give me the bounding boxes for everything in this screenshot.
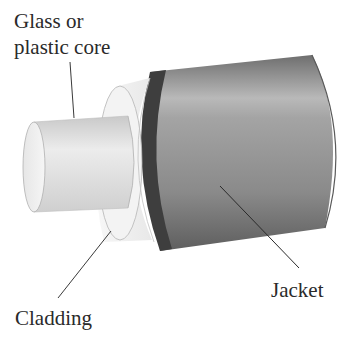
core-leader-line: [70, 62, 74, 118]
core: [23, 116, 134, 212]
core-label-line2: plastic core: [14, 34, 110, 60]
cladding-leader-line: [58, 231, 111, 298]
fiber-optic-diagram: Glass or plastic core Cladding Jacket: [0, 0, 349, 344]
core-label: Glass or plastic core: [14, 8, 110, 60]
core-label-line1: Glass or: [14, 8, 110, 34]
cladding-label: Cladding: [15, 305, 92, 331]
jacket-label: Jacket: [271, 277, 323, 303]
jacket: [141, 55, 336, 251]
